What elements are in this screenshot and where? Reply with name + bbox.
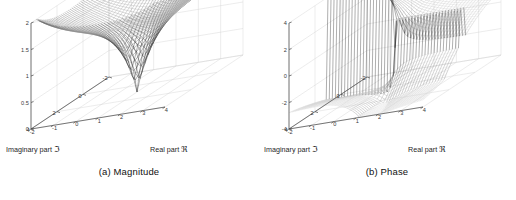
- phase-mesh: [289, 0, 501, 117]
- phase-plot-area: -4-2024420-2-2-101234Imaginary part ℑRea…: [258, 0, 516, 168]
- x-tick-label: 0: [333, 121, 336, 127]
- z-tick-label: 1: [26, 73, 29, 79]
- y-tick-label: 2: [52, 110, 55, 116]
- x-tick-label: 0: [75, 121, 78, 127]
- z-tick-label: 1.5: [21, 47, 29, 53]
- y-tick-label: 0: [78, 93, 81, 99]
- x-tick-label: 4: [165, 107, 168, 113]
- magnitude-plot-area: 00.511.52420-2-2-101234Imaginary part ℑR…: [0, 0, 258, 168]
- x-tick-label: 4: [423, 107, 426, 113]
- x-tick-label: 3: [400, 110, 403, 116]
- panel-phase: -4-2024420-2-2-101234Imaginary part ℑRea…: [258, 0, 516, 200]
- y-axis-title: Imaginary part ℑ: [264, 145, 318, 154]
- phase-surface-svg: -4-2024420-2-2-101234Imaginary part ℑRea…: [258, 0, 516, 168]
- y-tick-label: 2: [310, 110, 313, 116]
- magnitude-surface-svg: 00.511.52420-2-2-101234Imaginary part ℑR…: [0, 0, 258, 168]
- y-tick-label: -2: [103, 75, 108, 81]
- x-tick-label: -2: [30, 129, 35, 135]
- z-tick-label: 2: [284, 47, 287, 53]
- z-tick-label: 0.5: [21, 100, 29, 106]
- caption-phase: (b) Phase: [258, 166, 516, 177]
- z-tick-label: 4: [284, 20, 287, 26]
- x-tick-label: -1: [310, 125, 315, 131]
- y-tick-label: 0: [336, 93, 339, 99]
- x-axis-title: Real part ℜ: [150, 145, 188, 154]
- panel-magnitude: 00.511.52420-2-2-101234Imaginary part ℑR…: [0, 0, 258, 200]
- x-axis-title: Real part ℜ: [408, 145, 446, 154]
- x-tick-label: 2: [120, 114, 123, 120]
- x-tick-label: 1: [356, 118, 359, 124]
- figure-row: 00.511.52420-2-2-101234Imaginary part ℑR…: [0, 0, 516, 200]
- x-tick-label: -1: [52, 125, 57, 131]
- x-tick-label: 3: [142, 110, 145, 116]
- z-tick-label: -2: [282, 100, 287, 106]
- z-tick-label: 2: [26, 20, 29, 26]
- z-tick-label: 0: [284, 73, 287, 79]
- y-tick-label: -2: [361, 75, 366, 81]
- caption-magnitude: (a) Magnitude: [0, 166, 258, 177]
- y-axis-title: Imaginary part ℑ: [6, 145, 60, 154]
- x-tick-label: 1: [98, 118, 101, 124]
- x-tick-label: 2: [378, 114, 381, 120]
- x-tick-label: -2: [288, 129, 293, 135]
